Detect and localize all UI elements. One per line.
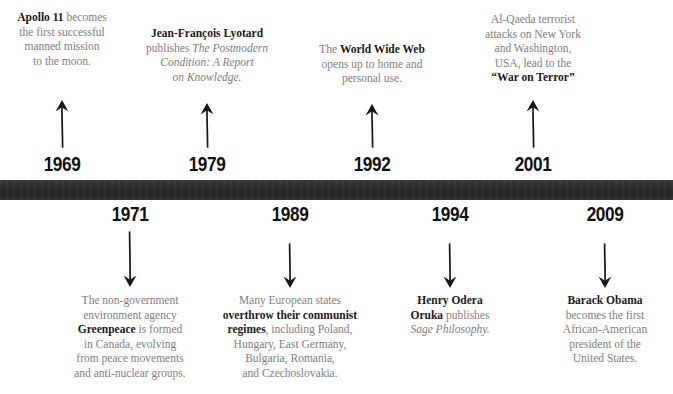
event-description-line: Henry Odera xyxy=(375,293,525,308)
event-text-segment: and Washington, xyxy=(495,42,572,54)
timeline-axis-bar xyxy=(0,180,673,200)
event-text-segment: The xyxy=(319,43,340,55)
event-description-2001: Al-Qaeda terroristattacks on New Yorkand… xyxy=(458,12,608,85)
up-arrow-icon xyxy=(520,100,546,148)
event-text-segment: publishes xyxy=(443,309,489,321)
event-description-1994: Henry OderaOruka publishesSage Philosoph… xyxy=(375,293,525,337)
event-text-segment: and Czechoslovakia. xyxy=(242,367,337,379)
event-description-line: personal use. xyxy=(297,71,447,86)
event-text-segment: personal use. xyxy=(342,72,402,84)
event-description-1971: The non-governmentenvironment agencyGree… xyxy=(55,293,205,380)
event-text-segment: United States. xyxy=(573,352,638,364)
event-description-1989: Many European statesoverthrow their comm… xyxy=(215,293,365,380)
event-description-line: The non-government xyxy=(55,293,205,308)
event-text-segment: “War on Terror” xyxy=(491,71,574,83)
event-description-line: Sage Philosophy. xyxy=(375,322,525,337)
down-arrow-icon xyxy=(592,243,618,288)
event-text-segment: , including Poland, xyxy=(266,323,353,335)
down-arrow-icon xyxy=(277,243,303,288)
year-label-1971: 1971 xyxy=(93,202,167,226)
event-description-line: “War on Terror” xyxy=(458,70,608,85)
event-text-segment: African-American xyxy=(563,323,647,335)
event-description-line: Many European states xyxy=(215,293,365,308)
event-text-segment: Hungary, East Germany, xyxy=(234,338,347,350)
event-description-line: the first successful xyxy=(0,25,137,40)
event-text-segment: Many European states xyxy=(239,294,341,306)
event-text-segment: Greenpeace xyxy=(78,323,136,335)
event-text-segment: Jean-François Lyotard xyxy=(151,27,263,39)
event-description-1979: Jean-François Lyotardpublishes The Postm… xyxy=(132,26,282,84)
event-description-line: USA, lead to the xyxy=(458,56,608,71)
event-description-line: environment agency xyxy=(55,308,205,323)
event-text-segment: Barack Obama xyxy=(567,294,642,306)
up-arrow-icon xyxy=(49,100,75,148)
year-label-2009: 2009 xyxy=(568,202,642,226)
event-description-line: from peace movements xyxy=(55,351,205,366)
event-description-line: Jean-François Lyotard xyxy=(132,26,282,41)
event-description-line: and anti-nuclear groups. xyxy=(55,366,205,381)
event-text-segment: becomes the first xyxy=(566,309,645,321)
year-label-1989: 1989 xyxy=(253,202,327,226)
event-text-segment: regimes xyxy=(228,323,266,335)
event-text-segment: publishes xyxy=(146,42,192,54)
event-description-line: Apollo 11 becomes xyxy=(0,10,137,25)
event-text-segment: Al-Qaeda terrorist xyxy=(491,13,575,25)
event-text-segment: attacks on New York xyxy=(485,28,581,40)
event-description-line: on Knowledge. xyxy=(132,70,282,85)
event-description-1969: Apollo 11 becomesthe first successfulman… xyxy=(0,10,137,68)
event-description-line: Barack Obama xyxy=(530,293,673,308)
event-description-line: Oruka publishes xyxy=(375,308,525,323)
event-description-line: The World Wide Web xyxy=(297,42,447,57)
event-description-line: and Czechoslovakia. xyxy=(215,366,365,381)
event-description-line: overthrow their communist xyxy=(215,308,365,323)
event-text-segment: Apollo 11 xyxy=(17,11,63,23)
event-description-line: Al-Qaeda terrorist xyxy=(458,12,608,27)
up-arrow-icon xyxy=(359,104,385,148)
down-arrow-icon xyxy=(437,243,463,288)
up-arrow-icon xyxy=(194,103,220,148)
year-label-1969: 1969 xyxy=(25,152,99,176)
event-description-line: opens up to home and xyxy=(297,57,447,72)
year-label-1992: 1992 xyxy=(335,152,409,176)
event-text-segment: Bulgaria, Romania, xyxy=(245,352,335,364)
event-description-line: African-American xyxy=(530,322,673,337)
event-text-segment: president of the xyxy=(569,338,641,350)
event-description-line: in Canada, evolving xyxy=(55,337,205,352)
event-description-line: publishes The Postmodern xyxy=(132,41,282,56)
event-text-segment: manned mission xyxy=(24,40,99,52)
event-text-segment: USA, lead to the xyxy=(495,57,572,69)
year-label-2001: 2001 xyxy=(496,152,570,176)
event-text-segment: is formed xyxy=(136,323,183,335)
event-description-line: Hungary, East Germany, xyxy=(215,337,365,352)
event-description-line: Bulgaria, Romania, xyxy=(215,351,365,366)
event-text-segment: in Canada, evolving xyxy=(84,338,176,350)
event-text-segment: becomes xyxy=(64,11,107,23)
event-text-segment: on Knowledge. xyxy=(173,71,242,83)
event-description-line: manned mission xyxy=(0,39,137,54)
event-text-segment: Henry Odera xyxy=(417,294,482,306)
event-text-segment: The Postmodern xyxy=(192,42,268,54)
event-description-line: United States. xyxy=(530,351,673,366)
down-arrow-icon xyxy=(117,231,143,287)
timeline-diagram: 1969Apollo 11 becomesthe first successfu… xyxy=(0,0,673,394)
event-description-line: and Washington, xyxy=(458,41,608,56)
year-label-1994: 1994 xyxy=(413,202,487,226)
event-text-segment: opens up to home and xyxy=(322,58,423,70)
event-text-segment: World Wide Web xyxy=(340,43,425,55)
event-description-1992: The World Wide Webopens up to home andpe… xyxy=(297,42,447,86)
event-text-segment: and anti-nuclear groups. xyxy=(74,367,185,379)
event-text-segment: Condition: A Report xyxy=(160,56,254,68)
event-text-segment: to the moon. xyxy=(33,55,91,67)
event-text-segment: The non-government xyxy=(82,294,179,306)
event-description-line: Greenpeace is formed xyxy=(55,322,205,337)
event-text-segment: the first successful xyxy=(19,26,105,38)
event-description-line: attacks on New York xyxy=(458,27,608,42)
event-description-line: regimes, including Poland, xyxy=(215,322,365,337)
event-text-segment: overthrow their communist xyxy=(223,309,357,321)
event-description-line: to the moon. xyxy=(0,54,137,69)
event-description-2009: Barack Obamabecomes the firstAfrican-Ame… xyxy=(530,293,673,366)
event-description-line: Condition: A Report xyxy=(132,55,282,70)
event-text-segment: from peace movements xyxy=(76,352,183,364)
event-description-line: president of the xyxy=(530,337,673,352)
event-text-segment: Oruka xyxy=(411,309,444,321)
